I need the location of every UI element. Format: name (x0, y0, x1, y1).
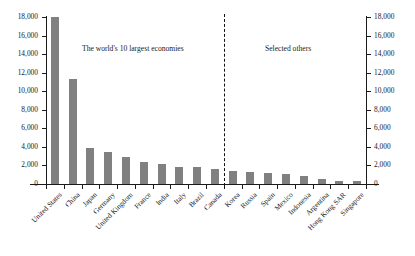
x-label-india: India (154, 191, 170, 207)
bar-france (140, 162, 148, 184)
x-tick-7 (170, 185, 171, 189)
x-tick-0 (46, 185, 47, 189)
y-axis-right-line (366, 16, 367, 185)
bars-layer (46, 17, 366, 184)
y-tick-right-12000 (367, 73, 371, 74)
bar-japan (86, 148, 94, 184)
bar-hong-kong-sar (335, 181, 343, 184)
bar-korea (229, 171, 237, 184)
x-tick-13 (277, 185, 278, 189)
bar-mexico (282, 174, 290, 184)
x-tick-17 (348, 185, 349, 189)
x-tick-16 (330, 185, 331, 189)
y-tick-label-left-16000: 16,000 (18, 32, 38, 40)
x-tick-4 (117, 185, 118, 189)
y-tick-label-left-2000: 2,000 (21, 161, 38, 169)
y-tick-right-14000 (367, 54, 371, 55)
x-tick-1 (64, 185, 65, 189)
annotation-selected-others: Selected others (265, 44, 311, 53)
y-tick-label-left-12000: 12,000 (18, 69, 38, 77)
y-tick-label-left-0: 0 (34, 180, 38, 188)
x-tick-18 (366, 185, 367, 189)
x-label-canada: Canada (202, 191, 223, 212)
x-tick-11 (242, 185, 243, 189)
y-tick-label-right-12000: 12,000 (374, 69, 394, 77)
y-tick-label-left-6000: 6,000 (21, 124, 38, 132)
y-tick-label-left-18000: 18,000 (18, 13, 38, 21)
y-tick-right-4000 (367, 147, 371, 148)
x-tick-15 (313, 185, 314, 189)
x-label-russia: Russia (240, 191, 259, 210)
x-tick-6 (153, 185, 154, 189)
y-tick-right-6000 (367, 128, 371, 129)
bar-russia (246, 172, 254, 184)
y-tick-label-left-14000: 14,000 (18, 50, 38, 58)
y-tick-label-right-2000: 2,000 (374, 161, 391, 169)
x-tick-12 (259, 185, 260, 189)
x-tick-14 (295, 185, 296, 189)
x-label-italy: Italy (173, 191, 188, 206)
y-tick-label-right-18000: 18,000 (374, 13, 394, 21)
bar-united-kingdom (122, 157, 130, 184)
x-tick-2 (82, 185, 83, 189)
y-tick-right-10000 (367, 91, 371, 92)
bar-india (158, 164, 166, 184)
y-tick-right-8000 (367, 110, 371, 111)
y-tick-label-left-8000: 8,000 (21, 106, 38, 114)
bar-singapore (353, 181, 361, 184)
bar-spain (264, 173, 272, 184)
bar-canada (211, 169, 219, 184)
y-tick-label-left-4000: 4,000 (21, 143, 38, 151)
y-tick-label-left-10000: 10,000 (18, 87, 38, 95)
x-tick-5 (135, 185, 136, 189)
bar-indonesia (300, 176, 308, 184)
y-tick-label-right-10000: 10,000 (374, 87, 394, 95)
y-tick-label-right-6000: 6,000 (374, 124, 391, 132)
y-tick-right-0 (367, 184, 371, 185)
annotation-largest-economies: The world's 10 largest economies (82, 44, 184, 53)
bar-china (69, 79, 77, 184)
x-label-france: France (133, 191, 153, 211)
x-tick-3 (99, 185, 100, 189)
y-tick-right-16000 (367, 36, 371, 37)
y-tick-right-18000 (367, 17, 371, 18)
bar-united-states (51, 17, 59, 184)
bar-argentina (318, 179, 326, 184)
x-label-korea: Korea (223, 191, 241, 209)
x-tick-8 (188, 185, 189, 189)
x-label-united-states: United States (30, 191, 63, 224)
x-label-china: China (63, 191, 81, 209)
group-divider (224, 14, 225, 186)
y-tick-label-right-14000: 14,000 (374, 50, 394, 58)
y-tick-label-right-8000: 8,000 (374, 106, 391, 114)
bar-brazil (193, 167, 201, 184)
y-tick-label-right-0: 0 (374, 180, 378, 188)
y-tick-label-right-16000: 16,000 (374, 32, 394, 40)
bar-germany (104, 152, 112, 184)
bar-italy (175, 167, 183, 184)
y-tick-right-2000 (367, 165, 371, 166)
y-tick-label-right-4000: 4,000 (374, 143, 391, 151)
x-tick-9 (206, 185, 207, 189)
bar-chart: 18,00016,00014,00012,00010,0008,0006,000… (0, 0, 415, 256)
